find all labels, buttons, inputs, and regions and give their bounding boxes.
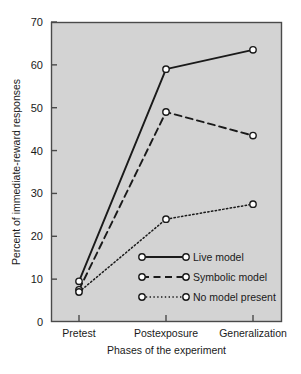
- line-chart: 010203040506070PretestPostexposureGenera…: [0, 0, 301, 374]
- data-point-marker: [250, 201, 256, 207]
- y-axis-tick-label: 50: [31, 102, 43, 114]
- legend-marker-icon: [183, 274, 189, 280]
- y-axis-title: Percent of immediate-reward responses: [10, 79, 22, 265]
- data-point-marker: [250, 47, 256, 53]
- y-axis-tick-label: 40: [31, 145, 43, 157]
- data-point-marker: [76, 289, 82, 295]
- legend-marker-icon: [139, 254, 145, 260]
- legend-label: Symbolic model: [193, 271, 267, 283]
- x-axis-tick-label: Generalization: [219, 327, 287, 339]
- data-point-marker: [163, 216, 169, 222]
- data-point-marker: [250, 132, 256, 138]
- legend-marker-icon: [139, 294, 145, 300]
- legend-marker-icon: [183, 254, 189, 260]
- x-axis-tick-label: Postexposure: [134, 327, 198, 339]
- x-axis-title: Phases of the experiment: [107, 344, 226, 356]
- y-axis-tick-label: 30: [31, 187, 43, 199]
- chart-figure: 010203040506070PretestPostexposureGenera…: [0, 0, 301, 374]
- x-axis-tick-label: Pretest: [62, 327, 95, 339]
- y-axis-tick-label: 20: [31, 230, 43, 242]
- y-axis-tick-label: 10: [31, 273, 43, 285]
- data-point-marker: [163, 109, 169, 115]
- legend-marker-icon: [183, 294, 189, 300]
- y-axis-tick-label: 0: [37, 316, 43, 328]
- y-axis-tick-label: 70: [31, 16, 43, 28]
- legend-label: No model present: [193, 291, 276, 303]
- legend-marker-icon: [139, 274, 145, 280]
- data-point-marker: [163, 66, 169, 72]
- y-axis-tick-label: 60: [31, 59, 43, 71]
- legend-label: Live model: [193, 251, 244, 263]
